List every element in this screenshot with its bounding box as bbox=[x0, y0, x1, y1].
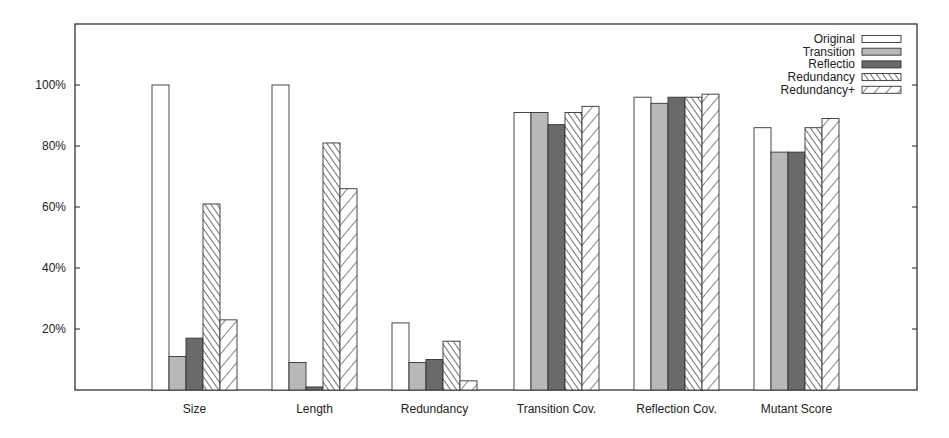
bar bbox=[203, 204, 220, 390]
bar bbox=[668, 97, 685, 390]
bar-group bbox=[392, 323, 477, 390]
bar bbox=[754, 128, 771, 390]
bar-group bbox=[152, 85, 237, 390]
bar-group bbox=[514, 106, 599, 390]
bar bbox=[634, 97, 651, 390]
bar-chart: 20%40%60%80%100% SizeLengthRedundancyTra… bbox=[0, 0, 949, 438]
bar bbox=[152, 85, 169, 390]
bar bbox=[771, 152, 788, 390]
legend-label: Redundancy+ bbox=[781, 83, 855, 97]
y-tick-label: 100% bbox=[35, 78, 66, 92]
x-tick-label: Transition Cov. bbox=[517, 402, 596, 416]
bar bbox=[426, 360, 443, 391]
bars bbox=[152, 85, 839, 390]
bar bbox=[548, 125, 565, 390]
bar bbox=[443, 341, 460, 390]
x-tick-label: Redundancy bbox=[401, 402, 468, 416]
bar bbox=[340, 189, 357, 390]
legend-swatch bbox=[862, 86, 901, 93]
bar bbox=[169, 356, 186, 390]
bar bbox=[651, 103, 668, 390]
bar bbox=[805, 128, 822, 390]
bar bbox=[514, 112, 531, 390]
bar bbox=[186, 338, 203, 390]
x-tick-label: Reflection Cov. bbox=[636, 402, 716, 416]
legend-swatch bbox=[862, 61, 901, 68]
bar bbox=[702, 94, 719, 390]
legend-swatch bbox=[862, 48, 901, 55]
bar bbox=[565, 112, 582, 390]
y-tick-label: 60% bbox=[42, 200, 66, 214]
legend-swatch bbox=[862, 36, 901, 43]
bar bbox=[289, 363, 306, 390]
legend: OriginalTransitionReflectioRedundancyRed… bbox=[781, 32, 901, 97]
bar bbox=[272, 85, 289, 390]
bar bbox=[685, 97, 702, 390]
y-tick-label: 40% bbox=[42, 261, 66, 275]
x-axis: SizeLengthRedundancyTransition Cov.Refle… bbox=[183, 402, 833, 416]
bar bbox=[531, 112, 548, 390]
bar bbox=[582, 106, 599, 390]
legend-swatch bbox=[862, 74, 901, 81]
bar bbox=[392, 323, 409, 390]
bar bbox=[323, 143, 340, 390]
bar bbox=[409, 363, 426, 390]
x-tick-label: Length bbox=[296, 402, 333, 416]
y-tick-label: 20% bbox=[42, 322, 66, 336]
bar-group bbox=[754, 119, 839, 390]
bar-group bbox=[272, 85, 357, 390]
x-tick-label: Mutant Score bbox=[761, 402, 833, 416]
bar bbox=[460, 381, 477, 390]
bar bbox=[822, 119, 839, 390]
bar bbox=[220, 320, 237, 390]
bar bbox=[306, 387, 323, 390]
x-tick-label: Size bbox=[183, 402, 207, 416]
bar bbox=[788, 152, 805, 390]
bar-group bbox=[634, 94, 719, 390]
y-tick-label: 80% bbox=[42, 139, 66, 153]
